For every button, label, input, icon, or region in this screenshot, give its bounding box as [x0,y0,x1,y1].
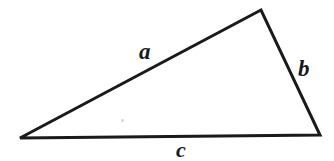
triangle-drawing [0,0,334,161]
side-label-c: c [176,139,186,161]
triangle-figure: a b c [0,0,334,161]
side-label-b: b [298,57,310,80]
triangle-outline [20,10,320,138]
side-label-a: a [139,40,151,63]
scan-artifact-speck [121,119,124,122]
